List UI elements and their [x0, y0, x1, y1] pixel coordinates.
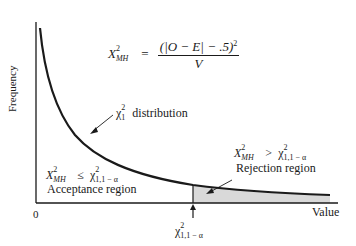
origin-label: 0 [33, 209, 39, 220]
formula-numerator-text: (|O − E| − .5) [160, 39, 233, 54]
formula-equals: = [141, 46, 148, 61]
critical-value-label: χ21,1 − α [175, 222, 206, 242]
mh-formula: X2MH = (|O − E| − .5)2 V [108, 40, 239, 70]
y-axis-label: Frequency [6, 66, 18, 112]
dist-text: distribution [132, 106, 187, 120]
acceptance-region-label: Acceptance region [47, 183, 137, 195]
reject-operator: > [265, 146, 272, 160]
formula-numerator: (|O − E| − .5)2 [158, 40, 239, 56]
formula-lhs-base: X [108, 46, 116, 61]
distribution-label: χ21 distribution [116, 104, 188, 124]
dist-sub: 1 [121, 114, 125, 122]
accept-rhs-sup: 2 [95, 166, 99, 174]
reject-lhs-sup: 2 [241, 144, 245, 152]
accept-lhs-sup: 2 [53, 166, 57, 174]
crit-sub: 1,1 − α [180, 232, 203, 240]
formula-lhs-sub: MH [116, 55, 128, 63]
formula-numerator-sup: 2 [233, 39, 237, 48]
dist-sup: 2 [121, 104, 125, 112]
reject-rhs-sup: 2 [283, 144, 287, 152]
accept-operator: ≤ [77, 168, 84, 182]
formula-fraction: (|O − E| − .5)2 V [158, 40, 239, 70]
x-axis-label: Value [312, 206, 339, 218]
formula-denominator: V [158, 56, 239, 70]
rejection-region-label: Rejection region [236, 162, 316, 174]
critical-value-arrowhead [190, 204, 196, 210]
crit-sup: 2 [180, 222, 184, 230]
formula-lhs-sup: 2 [116, 45, 120, 53]
